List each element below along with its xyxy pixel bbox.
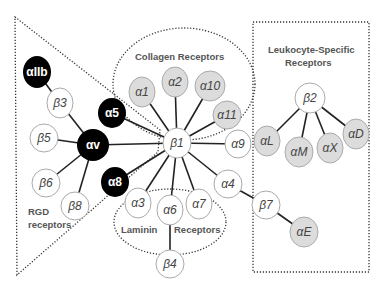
node-a8: α8 xyxy=(101,167,129,197)
node-b6: β6 xyxy=(32,169,60,197)
node-a10: α10 xyxy=(195,71,225,101)
node-b2: β2 xyxy=(295,83,325,113)
svg-text:αv: αv xyxy=(86,138,100,152)
svg-text:β5: β5 xyxy=(36,131,51,145)
svg-text:β1: β1 xyxy=(169,136,184,150)
svg-text:α11: α11 xyxy=(217,108,236,122)
node-aE: αE xyxy=(290,217,318,247)
node-aX: αX xyxy=(317,133,343,163)
node-b7: β7 xyxy=(252,191,280,219)
node-a5: α5 xyxy=(98,98,126,128)
node-a4: α4 xyxy=(214,170,242,198)
node-b5: β5 xyxy=(30,124,58,152)
node-b1: β1 xyxy=(163,128,191,158)
svg-text:β8: β8 xyxy=(67,199,82,213)
node-a7: α7 xyxy=(186,189,212,219)
svg-text:αD: αD xyxy=(348,127,364,141)
svg-text:α6: α6 xyxy=(163,203,177,217)
node-a6: α6 xyxy=(157,195,183,225)
collagen-label: Collagen Receptors xyxy=(135,51,224,62)
svg-text:α5: α5 xyxy=(105,106,119,120)
node-aIIb: αIIb xyxy=(23,56,51,88)
node-a3: α3 xyxy=(125,188,151,218)
svg-text:αX: αX xyxy=(323,141,339,155)
svg-text:αL: αL xyxy=(260,134,274,148)
node-a9: α9 xyxy=(225,130,251,158)
leukocyte-label-line2: Receptors xyxy=(285,57,331,68)
node-b8: β8 xyxy=(61,192,89,220)
svg-text:β6: β6 xyxy=(38,176,53,190)
node-aD: αD xyxy=(343,119,369,149)
svg-text:αIIb: αIIb xyxy=(26,65,47,79)
node-b4: β4 xyxy=(156,250,184,278)
svg-text:α8: α8 xyxy=(108,175,122,189)
svg-text:β3: β3 xyxy=(52,96,67,110)
svg-text:α9: α9 xyxy=(231,137,245,151)
leukocyte-label-line1: Leukocyte-Specific xyxy=(268,44,355,55)
laminin-label-left: Laminin xyxy=(121,224,158,235)
svg-text:α1: α1 xyxy=(135,85,149,99)
svg-text:αM: αM xyxy=(291,145,308,159)
node-av: αv xyxy=(77,129,109,161)
integrin-diagram: αIIb α5 αv α8 β3 β5 β6 β8 β1 α9 α4 xyxy=(0,0,381,281)
svg-text:α4: α4 xyxy=(221,177,235,191)
svg-text:β7: β7 xyxy=(258,198,274,212)
node-b3: β3 xyxy=(47,88,73,118)
node-aL: αL xyxy=(254,126,280,156)
node-a11: α11 xyxy=(213,101,241,129)
rgd-label-line1: RGD xyxy=(28,206,49,217)
svg-text:β4: β4 xyxy=(162,257,177,271)
rgd-label-line2: receptors xyxy=(28,219,71,230)
svg-text:αE: αE xyxy=(297,225,313,239)
svg-text:α2: α2 xyxy=(168,75,182,89)
laminin-label-right: Receptors xyxy=(174,224,220,235)
node-a2: α2 xyxy=(162,67,188,97)
svg-text:β2: β2 xyxy=(302,91,317,105)
node-aM: αM xyxy=(285,137,313,167)
svg-text:α7: α7 xyxy=(192,197,207,211)
svg-text:α10: α10 xyxy=(200,79,221,93)
node-a1: α1 xyxy=(129,77,155,107)
svg-text:α3: α3 xyxy=(131,196,145,210)
